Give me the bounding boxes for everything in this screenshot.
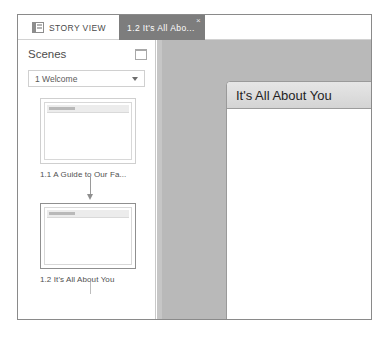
canvas-edge-shadow [157,40,162,319]
body-split: Scenes 1 Welcome 1.1 A Guide [18,40,371,319]
scenes-title: Scenes [28,48,135,60]
tab-bar: STORY VIEW 1.2 It's All Abo... × [18,15,371,40]
slide-thumbnail[interactable] [40,98,136,164]
connector-tail-line [90,282,91,294]
slide-title-bar[interactable]: It's All About You [227,82,371,109]
slide-thumbnail-preview [44,102,132,160]
thumbnail-title-bar [47,210,129,218]
slide-title: It's All About You [236,88,332,103]
scene-thumbnail-label: 1.2 It's All About You [40,275,136,284]
thumbnail-title-placeholder [49,107,75,110]
scenes-sidebar: Scenes 1 Welcome 1.1 A Guide [18,40,156,319]
scene-thumbnail-list: 1.1 A Guide to Our Fa... 1.2 It's A [18,92,155,319]
chevron-down-icon [132,77,138,81]
application-window: STORY VIEW 1.2 It's All Abo... × Scenes … [17,14,372,320]
scene-selector-value: 1 Welcome [35,74,132,84]
tab-story-view[interactable]: STORY VIEW [28,15,118,40]
scene-thumbnail-item-2[interactable]: 1.2 It's All About You [40,203,136,284]
tab-scene-slide-label: 1.2 It's All Abo... [127,23,195,33]
slide-editor[interactable]: It's All About You [226,81,371,319]
tab-story-view-label: STORY VIEW [49,23,106,33]
slide-thumbnail[interactable] [40,203,136,269]
scene-selector[interactable]: 1 Welcome [28,70,145,87]
panel-toggle-icon[interactable] [135,49,147,60]
thumbnail-title-bar [47,105,129,113]
slide-canvas[interactable]: It's All About You [157,40,371,319]
thumbnail-title-placeholder [49,212,75,215]
scene-thumbnail-item-1[interactable]: 1.1 A Guide to Our Fa... [40,98,136,179]
close-icon[interactable]: × [196,17,201,25]
slide-body[interactable] [227,110,371,319]
slide-thumbnail-preview [44,207,132,265]
scenes-header: Scenes [18,40,155,68]
tab-scene-slide[interactable]: 1.2 It's All Abo... × [119,15,205,40]
connector-arrow-icon [86,177,95,201]
story-view-icon [32,22,44,33]
